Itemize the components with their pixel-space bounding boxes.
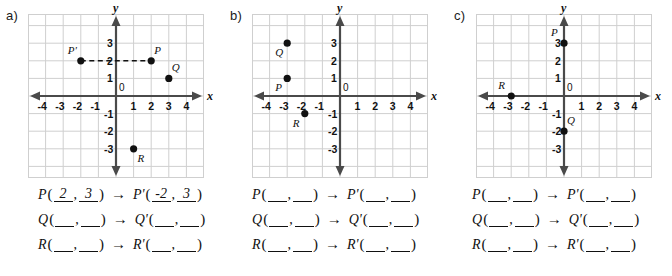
answer-list-b: P(,)→P'(,)Q(,)→Q'(,)R(,)→R'(,) [252, 182, 476, 257]
answer-blank-image-y[interactable] [177, 237, 196, 252]
plotted-point [508, 92, 515, 99]
answer-blank-x[interactable] [54, 237, 73, 252]
answer-blank-image-y[interactable] [611, 187, 630, 202]
y-tick-label: -3 [552, 144, 561, 155]
point-label: R [293, 118, 300, 129]
x-tick-label: 1 [355, 101, 361, 112]
plot-svg-a [28, 14, 204, 178]
comma: , [74, 237, 78, 253]
answer-blank-image-y[interactable] [180, 212, 199, 227]
x-tick-label: 1 [131, 101, 137, 112]
panel-label-c: c) [454, 8, 465, 23]
comma: , [74, 187, 78, 203]
close-paren: ) [414, 211, 419, 228]
close-paren: ) [99, 186, 104, 203]
answer-point-name: P [38, 187, 47, 203]
plotted-point [284, 40, 291, 47]
answer-blank-image-x[interactable] [586, 237, 605, 252]
answer-blank-x[interactable] [268, 237, 287, 252]
open-paren: ( [263, 211, 268, 228]
answer-row: P(,)→P'(,) [472, 182, 672, 207]
answer-image-point-name: Q' [349, 212, 362, 228]
maps-to-arrow-icon: → [547, 212, 562, 227]
y-tick-label: -1 [552, 109, 561, 120]
point-label: P [154, 45, 161, 56]
close-paren: ) [313, 186, 318, 203]
open-paren: ( [580, 186, 585, 203]
panel-label-a: a) [6, 8, 18, 23]
answer-blank-image-y[interactable] [611, 237, 630, 252]
x-tick-label: 2 [596, 101, 602, 112]
answer-blank-image-x[interactable] [152, 237, 171, 252]
answer-blank-y[interactable] [81, 212, 100, 227]
answer-blank-x[interactable] [488, 237, 507, 252]
answer-blank-image-x[interactable] [369, 212, 388, 227]
x-axis-label: x [655, 90, 661, 102]
close-paren: ) [411, 186, 416, 203]
answer-blank-y[interactable] [513, 187, 532, 202]
answer-blank-x[interactable] [488, 187, 507, 202]
open-paren: ( [583, 211, 588, 228]
y-tick-label: -3 [104, 144, 113, 155]
close-paren: ) [411, 236, 416, 253]
point-label: P' [68, 45, 77, 56]
comma: , [172, 237, 176, 253]
open-paren: ( [483, 211, 488, 228]
answer-image-point-name: R' [133, 237, 145, 253]
comma: , [386, 187, 390, 203]
close-paren: ) [533, 186, 538, 203]
answer-blank-y[interactable] [295, 212, 314, 227]
answer-image-point-name: Q' [569, 212, 582, 228]
answer-point-name: Q [252, 212, 262, 228]
answer-blank-image-x[interactable] [589, 212, 608, 227]
comma: , [175, 212, 179, 228]
answer-blank-y[interactable] [293, 187, 312, 202]
answer-blank-image-y[interactable]: 3 [177, 187, 196, 202]
answer-blank-image-x[interactable]: -2 [152, 187, 171, 202]
close-paren: ) [197, 186, 202, 203]
answer-blank-image-x[interactable] [155, 212, 174, 227]
coordinate-plane-b: -4-3-2-11234321-1-2-30xyQPR [252, 14, 428, 178]
comma: , [386, 237, 390, 253]
close-paren: ) [634, 211, 639, 228]
point-label: P [551, 27, 558, 38]
answer-blank-y[interactable] [79, 237, 98, 252]
y-tick-label: 2 [331, 56, 337, 67]
x-tick-label: -1 [314, 101, 323, 112]
maps-to-arrow-icon: → [325, 187, 340, 202]
answer-row: R(,)→R'(,) [252, 232, 476, 257]
y-tick-label: -1 [328, 109, 337, 120]
answer-blank-image-y[interactable] [614, 212, 633, 227]
panel-b: b) -4-3-2-11234321-1-2-30xyQPR P(,)→P'(,… [224, 0, 448, 276]
comma: , [508, 187, 512, 203]
answer-row: P(,)→P'(,) [252, 182, 476, 207]
answer-blank-image-y[interactable] [391, 187, 410, 202]
x-tick-label: -4 [486, 101, 495, 112]
answer-blank-y[interactable] [515, 212, 534, 227]
answer-blank-image-x[interactable] [586, 187, 605, 202]
answer-blank-y[interactable] [293, 237, 312, 252]
plot-svg-c [476, 14, 652, 178]
x-tick-label: -2 [73, 101, 82, 112]
answer-blank-image-y[interactable] [391, 237, 410, 252]
answer-blank-x[interactable] [268, 187, 287, 202]
maps-to-arrow-icon: → [111, 187, 126, 202]
close-paren: ) [315, 211, 320, 228]
answer-blank-x[interactable] [55, 212, 74, 227]
plotted-point [284, 75, 291, 82]
answer-blank-x[interactable]: 2 [54, 187, 73, 202]
answer-blank-y[interactable]: 3 [79, 187, 98, 202]
plotted-point [77, 57, 84, 64]
answer-blank-x[interactable] [269, 212, 288, 227]
y-axis-label: y [337, 2, 342, 14]
origin-label: 0 [567, 83, 573, 93]
close-paren: ) [631, 186, 636, 203]
answer-blank-image-y[interactable] [394, 212, 413, 227]
close-paren: ) [631, 236, 636, 253]
answer-blank-image-x[interactable] [366, 237, 385, 252]
close-paren: ) [197, 236, 202, 253]
answer-blank-y[interactable] [513, 237, 532, 252]
answer-blank-image-x[interactable] [366, 187, 385, 202]
comma: , [288, 187, 292, 203]
answer-blank-x[interactable] [489, 212, 508, 227]
